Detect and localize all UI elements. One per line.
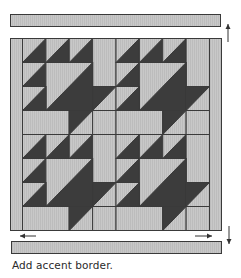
strip [12, 242, 222, 254]
quilt-patch [186, 207, 209, 231]
bottom-accent-border-strip [12, 242, 222, 254]
quilt-diagram [0, 0, 241, 278]
quilt-patch [93, 207, 116, 231]
quilt-patch [186, 111, 209, 135]
quilt-patch [93, 39, 116, 87]
right-arrow-icon [195, 234, 212, 239]
caption-text: Add accent border. [12, 259, 113, 271]
up-arrow-icon [226, 24, 231, 42]
quilt-patch [186, 39, 209, 87]
left-arrow-icon [20, 234, 36, 239]
quilt-patch [116, 207, 163, 231]
down-arrow-icon [227, 226, 232, 244]
strip [11, 15, 221, 27]
quilt-patch [93, 135, 116, 183]
quilt-patch [93, 111, 116, 135]
top-accent-border-strip [11, 15, 221, 27]
quilt-patch [186, 135, 209, 183]
quilt-patch [23, 111, 70, 135]
quilt-patch [23, 207, 70, 231]
quilt-patch [116, 111, 163, 135]
quilt-center [11, 38, 222, 231]
